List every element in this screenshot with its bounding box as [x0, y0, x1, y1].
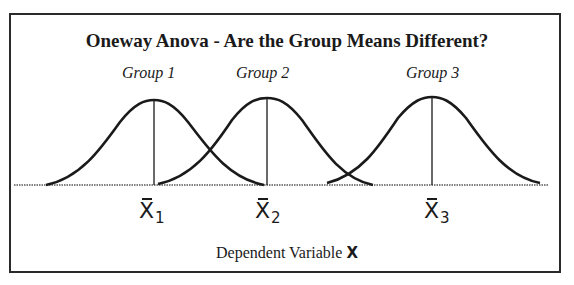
- distribution-plot: [0, 0, 574, 285]
- mean-symbol: X: [424, 198, 439, 223]
- mean-subscript: 1: [155, 209, 165, 227]
- mean-subscript: 2: [271, 209, 281, 227]
- group-3-mean-label: X3: [424, 198, 450, 227]
- mean-symbol: X: [255, 198, 270, 223]
- x-axis-label: Dependent Variable X: [0, 244, 574, 262]
- x-axis-variable: X: [346, 244, 358, 262]
- group-3-curve: [327, 97, 540, 183]
- mean-symbol: X: [139, 198, 154, 223]
- x-axis-label-text: Dependent Variable: [216, 244, 342, 261]
- mean-subscript: 3: [440, 209, 450, 227]
- group-1-curve: [46, 100, 264, 185]
- group-1-mean-label: X1: [139, 198, 165, 227]
- group-2-mean-label: X2: [255, 198, 281, 227]
- group-2-curve: [158, 98, 373, 185]
